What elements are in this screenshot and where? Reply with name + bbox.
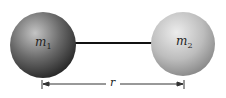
distance-label: r bbox=[110, 77, 115, 88]
arrowhead-left-icon bbox=[43, 82, 49, 86]
mass-2-label: m2 bbox=[176, 35, 192, 50]
arrowhead-right-icon bbox=[177, 82, 183, 86]
mass-1-label: m1 bbox=[35, 36, 51, 51]
